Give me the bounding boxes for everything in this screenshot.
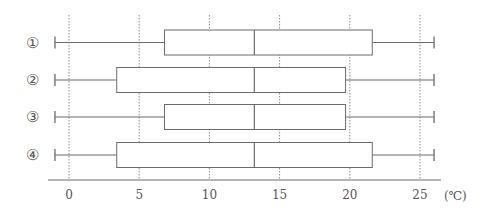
- x-tick-label: 20: [342, 188, 357, 202]
- iqr-box: [117, 68, 346, 93]
- x-tick-label: 25: [412, 188, 427, 202]
- unit-label: (℃): [444, 189, 467, 203]
- plot-area: 0510152025 ①②③④ (℃): [0, 0, 488, 217]
- row-label-1: ①: [26, 34, 39, 52]
- row-label-2: ②: [26, 71, 39, 89]
- iqr-box: [164, 30, 372, 55]
- box-1: [55, 30, 434, 55]
- iqr-box: [164, 105, 345, 130]
- row-label-4: ④: [26, 146, 39, 164]
- x-tick-label: 10: [202, 188, 217, 202]
- row-label-3: ③: [26, 108, 39, 126]
- box-4: [55, 143, 434, 168]
- x-tick-label: 0: [65, 188, 73, 202]
- box-3: [55, 105, 434, 130]
- box-series: [55, 30, 434, 168]
- iqr-box: [117, 143, 373, 168]
- x-tick-label: 5: [135, 188, 143, 202]
- x-tick-labels: 0510152025: [65, 188, 427, 202]
- box-plot-chart: 0510152025 ①②③④ (℃): [0, 0, 488, 217]
- row-labels: ①②③④: [26, 34, 39, 165]
- x-tick-label: 15: [272, 188, 287, 202]
- box-2: [55, 68, 434, 93]
